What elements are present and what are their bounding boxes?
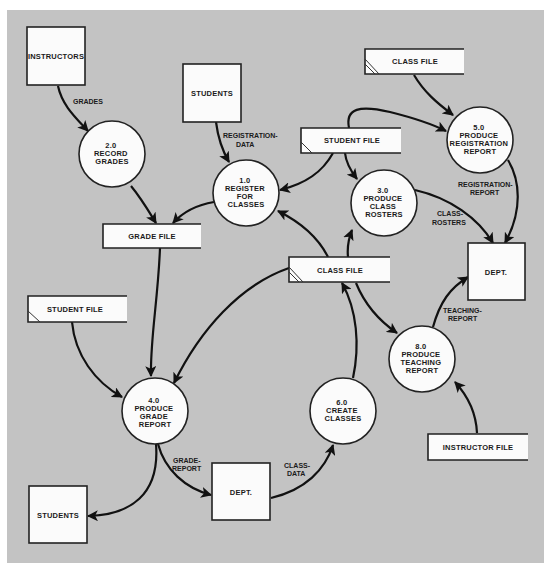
flow-instructor-file-to-p8 — [455, 382, 477, 433]
process-3-produce-class-rosters[interactable]: 3.0 PRODUCE CLASS ROSTERS — [351, 170, 417, 236]
flow-label-grade-report: GRADE- REPORT — [172, 457, 203, 472]
flow-students-to-p1 — [216, 122, 229, 162]
process-2-record-grades[interactable]: 2.0 RECORD GRADES — [79, 121, 145, 187]
entity-instructors[interactable]: INSTRUCTORS — [27, 27, 85, 85]
store-label: CLASS FILE — [317, 266, 363, 275]
flow-class-file-to-p1 — [278, 211, 328, 257]
entity-label: DEPT. — [230, 488, 252, 497]
store-grade-file[interactable]: GRADE FILE — [103, 224, 201, 248]
flow-label-registration-data: REGISTRATION- DATA — [223, 132, 280, 148]
flow-label-grades: GRADES — [73, 98, 103, 105]
entity-label: DEPT. — [485, 268, 507, 277]
entity-label: STUDENTS — [37, 511, 79, 520]
process-1-register-for-classes[interactable]: 1.0 REGISTER FOR CLASSES — [213, 160, 279, 226]
flow-student-file-to-p3 — [345, 153, 357, 179]
entity-label: INSTRUCTORS — [28, 52, 84, 61]
process-6-create-classes[interactable]: 6.0 CREATE CLASSES — [310, 378, 376, 444]
process-5-produce-registration-report[interactable]: 5.0 PRODUCE REGISTRATION REPORT — [447, 107, 513, 173]
entity-students-bottom[interactable]: STUDENTS — [29, 486, 87, 543]
flow-instructors-to-p2 — [58, 86, 88, 131]
flow-grade-file-to-p4 — [151, 248, 160, 376]
flow-class-file-to-p3 — [348, 230, 352, 257]
entity-students-top[interactable]: STUDENTS — [183, 64, 241, 122]
flow-label-class-data: CLASS- DATA — [284, 462, 312, 477]
flow-label-class-rosters: CLASS- ROSTERS — [432, 210, 466, 226]
flow-p5-to-dept — [505, 160, 518, 243]
store-label: GRADE FILE — [128, 232, 175, 241]
flow-student-file-to-p1 — [280, 153, 333, 190]
flow-p6-to-class-file — [342, 283, 357, 378]
flow-label-registration-report: REGISTRATION- REPORT — [458, 181, 515, 196]
store-student-file-top[interactable]: STUDENT FILE — [301, 128, 401, 153]
store-label: INSTRUCTOR FILE — [443, 443, 513, 452]
data-flow-diagram: GRADES REGISTRATION- DATA REGISTRATION- … — [0, 0, 554, 573]
store-class-file-mid[interactable]: CLASS FILE — [289, 257, 390, 282]
entity-dept-right[interactable]: DEPT. — [468, 243, 525, 300]
entity-dept-bottom[interactable]: DEPT. — [212, 463, 270, 520]
flow-class-file-to-p5 — [414, 75, 453, 115]
store-label: STUDENT FILE — [47, 305, 103, 314]
flow-student-file-left-to-p4 — [72, 322, 122, 397]
flow-p2-to-grade-file — [131, 186, 156, 223]
flow-label-teaching-report: TEACHING- REPORT — [443, 307, 484, 322]
flow-class-file-to-p4 — [174, 268, 289, 383]
process-8-produce-teaching-report[interactable]: 8.0 PRODUCE TEACHING REPORT — [389, 326, 455, 392]
store-class-file-top[interactable]: CLASS FILE — [365, 49, 464, 74]
store-student-file-left[interactable]: STUDENT FILE — [28, 296, 127, 322]
store-label: CLASS FILE — [392, 57, 438, 66]
process-4-produce-grade-report[interactable]: 4.0 PRODUCE GRADE REPORT — [122, 378, 188, 444]
entity-label: STUDENTS — [191, 89, 233, 98]
store-label: STUDENT FILE — [324, 136, 380, 145]
store-instructor-file[interactable]: INSTRUCTOR FILE — [428, 434, 528, 460]
flow-p4-to-students — [88, 444, 156, 516]
flow-class-file-to-p8 — [356, 283, 397, 333]
flow-p1-to-grade-file — [173, 202, 214, 223]
